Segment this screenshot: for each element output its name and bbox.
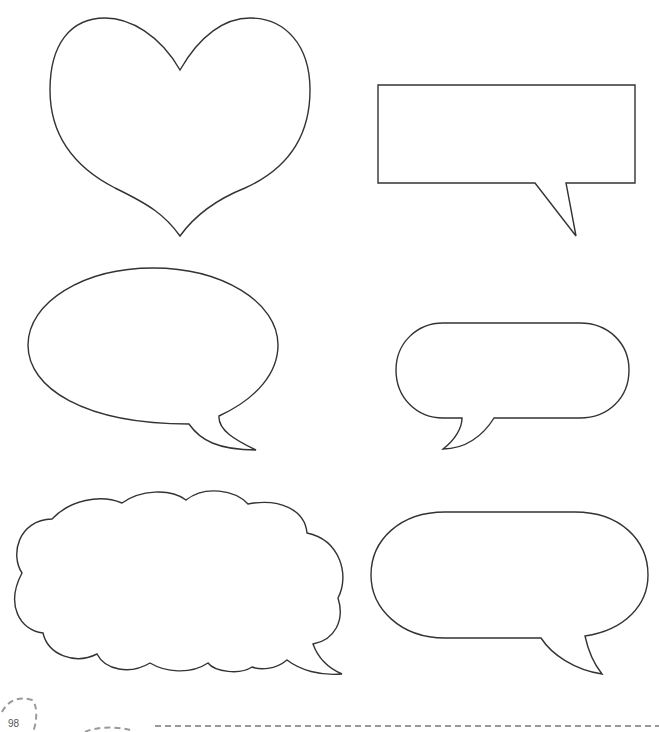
decorative-dashed-arc [85,728,130,732]
page-number: 98 [8,718,19,729]
heart-shape [50,18,310,236]
oval-speech-bubble [28,268,278,450]
small-pill-speech-bubble [396,323,629,449]
large-pill-speech-bubble [371,512,648,674]
rectangle-speech-bubble [378,85,635,236]
template-page [0,0,659,732]
cloud-thought-bubble [15,491,343,675]
